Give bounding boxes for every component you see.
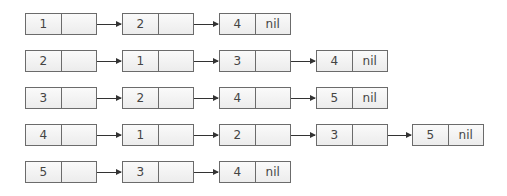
node-pointer xyxy=(158,14,194,34)
arrow-icon xyxy=(388,135,411,136)
node-value: 4 xyxy=(220,88,255,108)
node-pointer xyxy=(158,162,194,182)
list-node: 1 xyxy=(122,124,194,146)
list-node: 5nil xyxy=(412,124,484,146)
head-node: 3 xyxy=(25,87,97,109)
list-node: 4nil xyxy=(219,13,291,35)
arrow-icon xyxy=(291,135,315,136)
list-node: 3 xyxy=(316,124,388,146)
node-value: 2 xyxy=(123,14,158,34)
head-node: 4 xyxy=(25,124,97,146)
node-value: 3 xyxy=(26,88,61,108)
node-pointer xyxy=(158,125,194,145)
list-node: 3 xyxy=(219,50,291,72)
node-value: 2 xyxy=(26,51,61,71)
arrow-icon xyxy=(97,172,121,173)
list-node: 2 xyxy=(122,13,194,35)
arrow-icon xyxy=(194,61,218,62)
node-pointer xyxy=(255,125,291,145)
arrow-icon xyxy=(194,172,218,173)
node-value: 4 xyxy=(317,51,352,71)
node-pointer: nil xyxy=(352,51,388,71)
node-value: 2 xyxy=(220,125,255,145)
node-value: 3 xyxy=(123,162,158,182)
node-pointer: nil xyxy=(255,162,291,182)
list-row: 3245nil xyxy=(0,87,507,110)
node-value: 5 xyxy=(317,88,352,108)
node-pointer xyxy=(61,88,97,108)
node-pointer xyxy=(61,14,97,34)
node-pointer xyxy=(158,51,194,71)
list-node: 3 xyxy=(122,161,194,183)
node-value: 2 xyxy=(123,88,158,108)
node-value: 4 xyxy=(220,162,255,182)
list-row: 2134nil xyxy=(0,50,507,73)
arrow-icon xyxy=(97,61,121,62)
list-node: 4nil xyxy=(219,161,291,183)
node-value: 3 xyxy=(220,51,255,71)
list-node: 2 xyxy=(219,124,291,146)
head-node: 1 xyxy=(25,13,97,35)
list-row: 124nil xyxy=(0,13,507,36)
node-pointer xyxy=(158,88,194,108)
node-value: 1 xyxy=(123,125,158,145)
node-pointer: nil xyxy=(255,14,291,34)
arrow-icon xyxy=(97,24,121,25)
node-value: 5 xyxy=(26,162,61,182)
list-node: 4 xyxy=(219,87,291,109)
arrow-icon xyxy=(194,24,218,25)
list-node: 1 xyxy=(122,50,194,72)
node-pointer: nil xyxy=(352,88,388,108)
head-node: 2 xyxy=(25,50,97,72)
list-node: 2 xyxy=(122,87,194,109)
node-value: 1 xyxy=(123,51,158,71)
node-value: 1 xyxy=(26,14,61,34)
node-value: 3 xyxy=(317,125,352,145)
list-node: 4nil xyxy=(316,50,388,72)
node-value: 4 xyxy=(220,14,255,34)
list-node: 5nil xyxy=(316,87,388,109)
head-node: 5 xyxy=(25,161,97,183)
arrow-icon xyxy=(194,135,218,136)
node-value: 4 xyxy=(26,125,61,145)
arrow-icon xyxy=(194,98,218,99)
node-pointer xyxy=(255,51,291,71)
node-value: 5 xyxy=(413,125,448,145)
arrow-icon xyxy=(97,135,121,136)
arrow-icon xyxy=(291,61,315,62)
node-pointer xyxy=(352,125,388,145)
arrow-icon xyxy=(97,98,121,99)
list-row: 41235nil xyxy=(0,124,507,147)
node-pointer xyxy=(61,162,97,182)
node-pointer: nil xyxy=(448,125,484,145)
arrow-icon xyxy=(291,98,315,99)
list-row: 534nil xyxy=(0,161,507,184)
node-pointer xyxy=(61,51,97,71)
node-pointer xyxy=(61,125,97,145)
node-pointer xyxy=(255,88,291,108)
